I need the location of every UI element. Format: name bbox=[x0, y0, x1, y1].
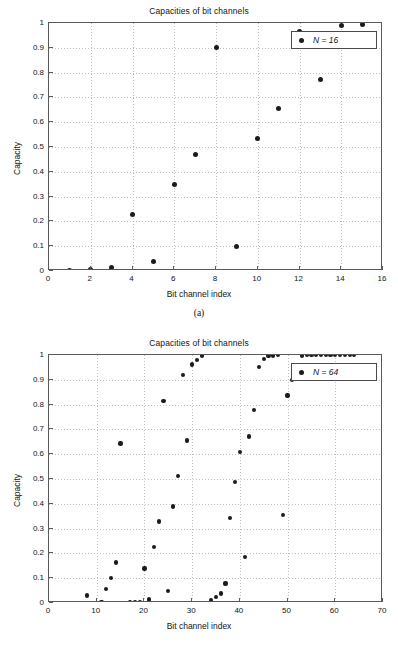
figure-a: Capacities of bit channels 0246810121416… bbox=[0, 0, 398, 332]
y-tick-label: 0.3 bbox=[16, 191, 44, 200]
y-tick-mark bbox=[49, 47, 53, 48]
x-tick-label: 10 bbox=[91, 606, 100, 615]
data-point bbox=[305, 355, 309, 357]
y-tick-label: 0.9 bbox=[16, 374, 44, 383]
data-point bbox=[172, 182, 177, 187]
y-tick-mark bbox=[49, 220, 53, 221]
chart-b-legend-label: N = 64 bbox=[313, 367, 338, 377]
y-tick-label: 0 bbox=[16, 266, 44, 275]
data-point bbox=[255, 136, 260, 141]
data-point bbox=[166, 589, 170, 593]
chart-b-plot-area bbox=[48, 354, 382, 602]
y-tick-label: 0.2 bbox=[16, 216, 44, 225]
figure-b: Capacities of bit channels 0102030405060… bbox=[0, 332, 398, 665]
x-tick-mark bbox=[334, 598, 335, 602]
y-tick-mark bbox=[49, 121, 53, 122]
y-tick-label: 1 bbox=[16, 350, 44, 359]
y-tick-mark bbox=[49, 72, 53, 73]
x-tick-label: 12 bbox=[294, 274, 303, 283]
data-point bbox=[228, 516, 232, 520]
y-tick-label: 0.1 bbox=[16, 241, 44, 250]
data-point bbox=[271, 355, 275, 358]
x-tick-mark bbox=[257, 266, 258, 270]
data-point bbox=[190, 362, 194, 366]
x-tick-label: 20 bbox=[139, 606, 148, 615]
x-tick-label: 10 bbox=[252, 274, 261, 283]
data-point bbox=[214, 595, 218, 599]
data-point bbox=[324, 355, 328, 357]
data-point bbox=[109, 265, 114, 269]
x-tick-label: 0 bbox=[46, 606, 50, 615]
x-tick-mark bbox=[299, 266, 300, 270]
data-point bbox=[338, 355, 342, 357]
data-point bbox=[257, 365, 261, 369]
y-tick-label: 0 bbox=[16, 598, 44, 607]
data-point bbox=[252, 408, 256, 412]
data-point bbox=[360, 23, 365, 27]
chart-b-x-axis-label: Bit channel index bbox=[0, 621, 398, 631]
chart-a-legend[interactable]: N = 16 bbox=[291, 31, 377, 49]
y-tick-label: 0.6 bbox=[16, 117, 44, 126]
x-tick-label: 60 bbox=[330, 606, 339, 615]
y-tick-label: 0.6 bbox=[16, 449, 44, 458]
x-tick-mark bbox=[340, 266, 341, 270]
data-point bbox=[118, 441, 122, 445]
legend-marker-icon bbox=[299, 38, 304, 43]
data-point bbox=[381, 23, 382, 26]
data-point bbox=[195, 358, 199, 362]
data-point bbox=[339, 23, 344, 28]
data-point bbox=[152, 545, 156, 549]
data-point bbox=[285, 393, 289, 397]
data-point bbox=[151, 259, 156, 264]
data-point bbox=[130, 212, 135, 217]
data-point bbox=[276, 355, 280, 357]
x-tick-mark bbox=[239, 598, 240, 602]
data-point bbox=[214, 45, 219, 50]
data-point bbox=[234, 244, 239, 249]
data-point bbox=[181, 373, 185, 377]
chart-a-plot-area bbox=[48, 22, 382, 270]
chart-b-y-axis-label: Capacity bbox=[12, 474, 22, 507]
y-tick-mark bbox=[49, 552, 53, 553]
data-point bbox=[99, 600, 103, 601]
y-tick-label: 0.7 bbox=[16, 424, 44, 433]
x-tick-mark bbox=[382, 266, 383, 270]
x-tick-mark bbox=[173, 266, 174, 270]
data-point bbox=[133, 600, 137, 601]
y-tick-label: 0.7 bbox=[16, 92, 44, 101]
data-point bbox=[281, 513, 285, 517]
data-point bbox=[147, 597, 151, 601]
y-tick-mark bbox=[49, 171, 53, 172]
data-point bbox=[171, 504, 175, 508]
x-tick-label: 16 bbox=[378, 274, 387, 283]
data-point bbox=[157, 519, 161, 523]
y-tick-mark bbox=[49, 196, 53, 197]
data-point bbox=[266, 355, 270, 358]
data-point bbox=[200, 355, 204, 358]
data-point bbox=[352, 355, 356, 357]
x-tick-mark bbox=[382, 598, 383, 602]
chart-b-legend[interactable]: N = 64 bbox=[291, 363, 377, 381]
x-tick-label: 14 bbox=[336, 274, 345, 283]
data-point bbox=[319, 355, 323, 357]
y-tick-mark bbox=[49, 528, 53, 529]
data-point bbox=[247, 434, 251, 438]
data-point bbox=[85, 593, 89, 597]
data-point bbox=[128, 600, 132, 601]
y-tick-mark bbox=[49, 354, 53, 355]
chart-b-title: Capacities of bit channels bbox=[0, 338, 398, 348]
figure-a-caption: (a) bbox=[0, 308, 398, 318]
data-point bbox=[328, 355, 332, 357]
y-tick-mark bbox=[49, 270, 53, 271]
data-point bbox=[223, 581, 227, 585]
data-point bbox=[104, 587, 108, 591]
data-point bbox=[67, 268, 72, 269]
y-tick-mark bbox=[49, 453, 53, 454]
x-tick-label: 2 bbox=[88, 274, 92, 283]
y-tick-mark bbox=[49, 96, 53, 97]
x-tick-label: 70 bbox=[378, 606, 387, 615]
data-point bbox=[138, 600, 142, 601]
y-tick-label: 0.8 bbox=[16, 67, 44, 76]
y-tick-label: 0.9 bbox=[16, 42, 44, 51]
y-tick-label: 0.8 bbox=[16, 399, 44, 408]
